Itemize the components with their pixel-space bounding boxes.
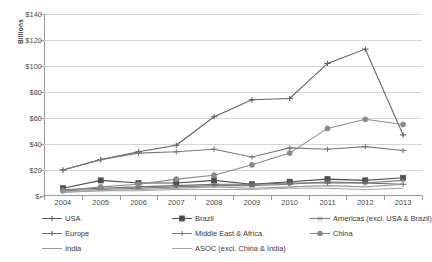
legend-swatch-icon [42, 229, 62, 238]
data-point-marker [362, 47, 368, 52]
x-tick-label: 2012 [357, 198, 374, 207]
legend-swatch-icon [42, 244, 62, 253]
series-line [63, 147, 403, 170]
chart-legend: USABrazilAmericas (excl. USA & Brazil)Eu… [14, 214, 424, 260]
data-point-marker [363, 117, 368, 122]
series-usa [60, 47, 407, 173]
y-tick-label: $20 [6, 166, 42, 175]
x-tick-mark [422, 196, 423, 200]
legend-item-americas-excl-usa-brazil[interactable]: Americas (excl. USA & Brazil) [310, 214, 432, 223]
data-point-marker [173, 149, 179, 154]
data-point-marker [287, 145, 293, 150]
data-point-marker [136, 182, 141, 187]
y-tick-label: $- [6, 192, 42, 201]
x-tick-label: 2008 [206, 198, 223, 207]
legend-label: Americas (excl. USA & Brazil) [333, 214, 432, 223]
legend-label: Europe [65, 229, 89, 238]
x-tick-label: 2005 [92, 198, 109, 207]
legend-item-usa[interactable]: USA [42, 214, 80, 223]
legend-label: ASOC (excl. China & India) [195, 244, 286, 253]
x-tick-label: 2013 [395, 198, 412, 207]
data-point-marker [362, 144, 368, 149]
x-tick-label: 2009 [244, 198, 261, 207]
legend-item-china[interactable]: China [310, 229, 353, 238]
y-tick-label: $120 [6, 36, 42, 45]
legend-item-asoc-excl-china-india[interactable]: ASOC (excl. China & India) [172, 244, 286, 253]
x-axis-tick-labels: 2004200520062007200820092010201120122013 [44, 198, 422, 212]
data-point-marker [400, 132, 406, 137]
data-point-marker [60, 188, 65, 193]
x-tick-label: 2006 [130, 198, 147, 207]
data-point-marker [174, 177, 179, 182]
x-tick-label: 2010 [281, 198, 298, 207]
legend-label: India [65, 244, 81, 253]
data-point-marker [98, 178, 103, 183]
data-point-marker [211, 147, 217, 152]
legend-item-india[interactable]: India [42, 244, 81, 253]
series-middle-east-africa [60, 144, 407, 173]
data-point-marker [98, 184, 103, 189]
legend-item-brazil[interactable]: Brazil [172, 214, 214, 223]
data-point-marker [249, 154, 255, 159]
data-point-marker [98, 157, 104, 162]
legend-swatch-icon [172, 229, 192, 238]
data-point-marker [249, 97, 255, 102]
legend-label: Brazil [195, 214, 214, 223]
y-tick-label: $100 [6, 62, 42, 71]
legend-swatch-icon [172, 214, 192, 223]
legend-label: Middle East & Africa [195, 229, 262, 238]
series-line [63, 49, 403, 170]
legend-item-europe[interactable]: Europe [42, 229, 89, 238]
data-point-marker [60, 167, 66, 172]
y-tick-label: $40 [6, 140, 42, 149]
x-tick-label: 2011 [319, 198, 335, 207]
data-point-marker [324, 147, 330, 152]
legend-item-middle-east-africa[interactable]: Middle East & Africa [172, 229, 262, 238]
data-point-marker [325, 126, 330, 131]
data-point-marker [401, 122, 406, 127]
legend-label: USA [65, 214, 80, 223]
y-tick-label: $140 [6, 10, 42, 19]
series-layer [44, 14, 422, 196]
legend-label: China [333, 229, 353, 238]
plot-area [44, 14, 422, 196]
legend-swatch-icon [172, 244, 192, 253]
y-tick-label: $80 [6, 88, 42, 97]
legend-swatch-icon [310, 214, 330, 223]
x-tick-label: 2004 [55, 198, 72, 207]
data-point-marker [401, 175, 406, 180]
data-point-marker [287, 151, 292, 156]
data-point-marker [400, 148, 406, 153]
legend-swatch-icon [310, 229, 330, 238]
y-tick-label: $60 [6, 114, 42, 123]
data-point-marker [212, 173, 217, 178]
data-point-marker [249, 162, 254, 167]
x-tick-label: 2007 [168, 198, 185, 207]
legend-swatch-icon [42, 214, 62, 223]
